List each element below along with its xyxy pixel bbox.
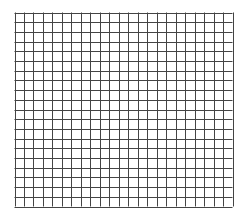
grid-lines: [0, 0, 244, 215]
grid-diagram: [0, 0, 244, 215]
